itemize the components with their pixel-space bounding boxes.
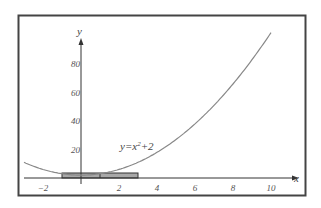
x-tick-label: 4 — [155, 183, 160, 193]
x-tick-label: 6 — [193, 183, 198, 193]
x-axis-label: x — [293, 172, 299, 184]
y-tick-label: 40 — [71, 116, 81, 126]
chart-frame — [19, 16, 306, 196]
y-tick-label: 60 — [71, 88, 81, 98]
chart: −224681020406080 x y y=x2+2 — [0, 0, 321, 208]
x-tick-label: 10 — [267, 183, 277, 193]
x-tick-label: 8 — [231, 183, 236, 193]
y-tick-label: 80 — [71, 59, 81, 69]
equation-label: y=x2+2 — [119, 140, 154, 152]
y-tick-label: 20 — [71, 145, 81, 155]
y-axis-label: y — [76, 25, 82, 37]
x-tick-label: −2 — [38, 183, 49, 193]
x-tick-label: 2 — [117, 183, 122, 193]
